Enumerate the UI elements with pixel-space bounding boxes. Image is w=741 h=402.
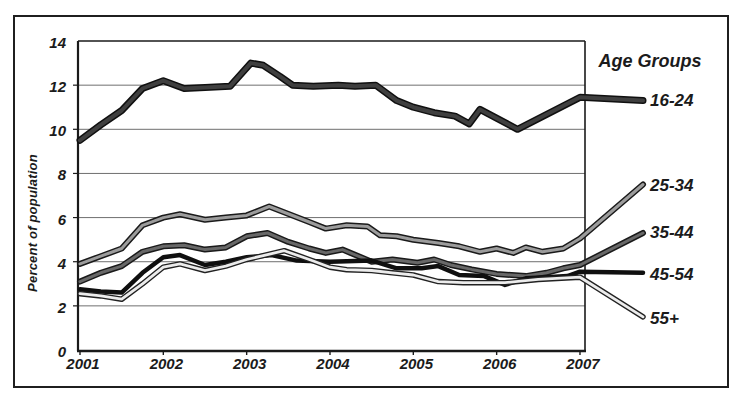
- x-tick-label: 2003: [228, 355, 272, 373]
- series-label-16-24: 16-24: [650, 90, 693, 112]
- series-line-16-24: [80, 63, 643, 140]
- legend-title: Age Groups: [592, 51, 708, 73]
- x-tick-label: 2005: [394, 355, 438, 373]
- series-line-core-16-24: [80, 63, 643, 140]
- x-tick-label: 2007: [561, 355, 605, 373]
- y-tick-label: 12: [28, 77, 66, 97]
- y-tick-label: 8: [28, 165, 66, 185]
- y-tick-label: 4: [28, 254, 66, 274]
- series-label-35-44: 35-44: [650, 222, 693, 244]
- series-line-25-34: [80, 185, 643, 264]
- series-label-55+: 55+: [650, 308, 679, 330]
- series-label-25-34: 25-34: [650, 175, 693, 197]
- y-tick-label: 14: [28, 33, 66, 53]
- series-label-45-54: 45-54: [650, 264, 693, 286]
- x-tick-label: 2004: [311, 355, 355, 373]
- x-tick-label: 2006: [478, 355, 522, 373]
- x-tick-label: 2002: [144, 355, 188, 373]
- y-tick-label: 6: [28, 210, 66, 230]
- chart-page: Percent of population 02468101214 200120…: [0, 0, 741, 402]
- y-tick-label: 10: [28, 121, 66, 141]
- series-line-45-54: [80, 255, 643, 293]
- y-tick-label: 2: [28, 298, 66, 318]
- x-tick-label: 2001: [61, 355, 105, 373]
